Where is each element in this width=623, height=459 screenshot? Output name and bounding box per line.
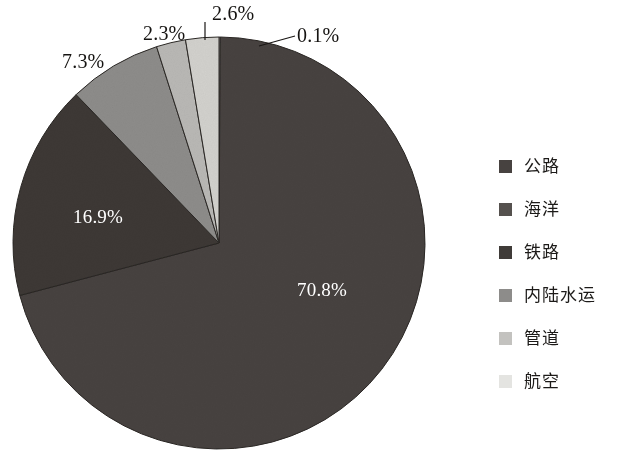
- legend-item-0[interactable]: 公路: [499, 145, 623, 188]
- pie-chart: 70.8% 16.9% 7.3% 2.3% 2.6% 0.1% 公路海洋铁路内陆…: [0, 0, 623, 459]
- slice-label-neilu: 2.3%: [143, 22, 185, 45]
- legend-swatch-icon: [499, 375, 512, 388]
- legend-swatch-icon: [499, 246, 512, 259]
- chart-legend: 公路海洋铁路内陆水运管道航空: [499, 145, 623, 403]
- slice-label-haiyang: 16.9%: [73, 206, 123, 228]
- legend-swatch-icon: [499, 203, 512, 216]
- legend-label: 管道: [524, 330, 560, 347]
- legend-swatch-icon: [499, 160, 512, 173]
- legend-item-4[interactable]: 管道: [499, 317, 623, 360]
- slice-label-guandao: 2.6%: [212, 2, 254, 25]
- leader-line-hangkong: [259, 36, 295, 46]
- legend-item-3[interactable]: 内陆水运: [499, 274, 623, 317]
- slice-label-tielu: 7.3%: [62, 50, 104, 73]
- legend-label: 铁路: [524, 244, 560, 261]
- legend-swatch-icon: [499, 332, 512, 345]
- slice-label-hangkong: 0.1%: [297, 24, 339, 47]
- legend-item-2[interactable]: 铁路: [499, 231, 623, 274]
- legend-swatch-icon: [499, 289, 512, 302]
- legend-label: 内陆水运: [524, 287, 596, 304]
- slice-label-gonglu: 70.8%: [297, 279, 347, 301]
- legend-item-5[interactable]: 航空: [499, 360, 623, 403]
- legend-label: 公路: [524, 158, 560, 175]
- legend-label: 航空: [524, 373, 560, 390]
- legend-item-1[interactable]: 海洋: [499, 188, 623, 231]
- legend-label: 海洋: [524, 201, 560, 218]
